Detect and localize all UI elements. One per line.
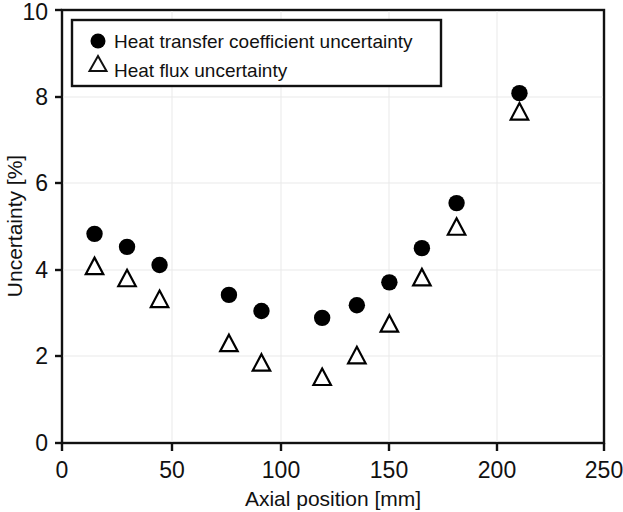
x-tick-label-100: 100	[262, 457, 300, 483]
y-tick-label-4: 4	[35, 257, 48, 283]
y-axis-title: Uncertainty [%]	[3, 155, 26, 297]
legend-filled-circle-icon	[91, 34, 106, 49]
x-tick-label-150: 150	[370, 457, 408, 483]
legend: Heat transfer coefficient uncertainty He…	[72, 20, 441, 86]
data-point-circle	[511, 85, 527, 101]
data-point-circle	[221, 287, 237, 303]
data-point-circle	[381, 274, 397, 290]
data-point-circle	[151, 257, 167, 273]
data-point-circle	[349, 297, 365, 313]
data-point-circle	[314, 310, 330, 326]
x-tick-label-200: 200	[478, 457, 516, 483]
y-tick-label-2: 2	[35, 343, 48, 369]
y-tick-label-8: 8	[35, 84, 48, 110]
data-point-circle	[119, 239, 135, 255]
scatter-plot-svg: 0 2 4 6 8 10 0 50 100 150 200 250 Axial …	[0, 0, 623, 512]
data-point-circle	[448, 195, 464, 211]
y-tick-label-10: 10	[22, 0, 48, 25]
legend-label-heat-flux: Heat flux uncertainty	[114, 60, 288, 81]
x-tick-label-250: 250	[585, 457, 623, 483]
data-point-circle	[414, 240, 430, 256]
x-axis-title: Axial position [mm]	[245, 487, 421, 510]
y-tick-label-0: 0	[35, 430, 48, 456]
data-point-circle	[86, 226, 102, 242]
x-tick-label-0: 0	[56, 457, 69, 483]
x-tick-label-50: 50	[159, 457, 185, 483]
legend-label-heat-transfer-coefficient: Heat transfer coefficient uncertainty	[114, 31, 413, 52]
y-tick-label-6: 6	[35, 170, 48, 196]
data-point-circle	[253, 303, 269, 319]
chart-figure: 0 2 4 6 8 10 0 50 100 150 200 250 Axial …	[0, 0, 623, 512]
